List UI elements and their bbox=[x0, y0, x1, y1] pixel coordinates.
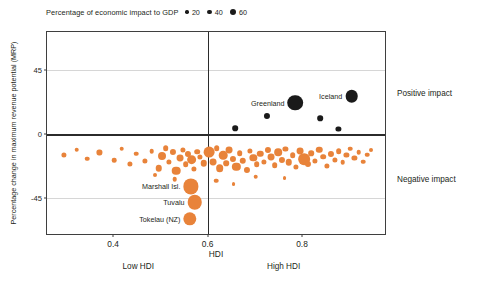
data-point bbox=[267, 154, 274, 161]
data-point bbox=[210, 158, 217, 165]
data-point bbox=[253, 174, 258, 179]
data-point bbox=[320, 154, 326, 160]
point-label-marshall-isl: Marshall Isl. bbox=[142, 182, 183, 191]
data-point bbox=[247, 148, 252, 153]
data-point bbox=[264, 113, 270, 119]
legend-label-60: 60 bbox=[239, 8, 247, 17]
data-point bbox=[233, 126, 239, 132]
data-point bbox=[332, 158, 337, 163]
data-point bbox=[230, 156, 236, 162]
data-point bbox=[240, 158, 247, 165]
legend-bubble-60 bbox=[230, 9, 236, 15]
data-point bbox=[214, 145, 220, 151]
data-point bbox=[361, 159, 366, 164]
data-point bbox=[85, 156, 90, 161]
data-point bbox=[201, 160, 208, 167]
x-tick-label: 0.4 bbox=[107, 234, 119, 249]
data-point bbox=[313, 158, 318, 163]
data-point bbox=[214, 178, 219, 183]
data-point bbox=[340, 160, 345, 165]
data-point bbox=[153, 173, 157, 177]
data-point bbox=[261, 159, 266, 164]
positive-impact-label: Positive impact bbox=[397, 88, 452, 97]
data-point bbox=[324, 163, 329, 168]
point-label-iceland: Iceland bbox=[319, 92, 345, 101]
data-point bbox=[232, 182, 236, 186]
y-tick-label: 45 bbox=[34, 66, 47, 75]
data-point bbox=[279, 156, 285, 162]
data-point bbox=[97, 150, 102, 155]
data-point bbox=[283, 176, 287, 180]
data-point bbox=[197, 154, 202, 159]
zero-reference-line bbox=[47, 134, 385, 136]
y-axis-label: Percentage change in maximum revenue pot… bbox=[9, 31, 18, 235]
gridline bbox=[47, 198, 385, 199]
legend-key-40: 40 bbox=[207, 8, 223, 17]
point-label-greenland: Greenland bbox=[251, 98, 288, 107]
gridline bbox=[47, 70, 385, 71]
chart-legend: Percentage of economic impact to GDP 20 … bbox=[46, 4, 247, 20]
negative-impact-label: Negative impact bbox=[397, 175, 456, 184]
data-point bbox=[244, 167, 250, 173]
data-point bbox=[250, 154, 257, 161]
data-point bbox=[232, 162, 240, 170]
data-point bbox=[192, 166, 197, 171]
x-tick-label: 0.8 bbox=[296, 234, 308, 249]
legend-title: Percentage of economic impact to GDP bbox=[46, 8, 178, 17]
y-tick-label: -45 bbox=[31, 193, 47, 202]
data-point bbox=[365, 152, 370, 157]
data-point bbox=[187, 155, 197, 165]
legend-label-20: 20 bbox=[192, 8, 200, 17]
data-point bbox=[356, 150, 361, 155]
data-point bbox=[309, 150, 315, 156]
legend-bubble-40 bbox=[207, 10, 212, 15]
data-point bbox=[172, 167, 181, 176]
legend-bubble-20 bbox=[185, 10, 188, 13]
data-point bbox=[163, 145, 169, 151]
data-point bbox=[305, 161, 311, 167]
data-point bbox=[272, 162, 278, 168]
data-point bbox=[223, 160, 229, 166]
legend-label-40: 40 bbox=[215, 8, 223, 17]
hdi-divider-line bbox=[208, 32, 210, 234]
data-point-marshall-isl bbox=[183, 179, 198, 194]
data-point bbox=[369, 148, 373, 152]
data-point-tuvalu bbox=[188, 195, 203, 210]
data-point bbox=[176, 155, 183, 162]
data-point bbox=[336, 126, 341, 131]
scatter-chart-figure: Percentage of economic impact to GDP 20 … bbox=[0, 0, 479, 303]
data-point bbox=[286, 159, 293, 166]
high-hdi-label: High HDI bbox=[267, 262, 300, 271]
data-point bbox=[328, 151, 334, 157]
data-point-greenland bbox=[288, 95, 304, 111]
data-point bbox=[226, 147, 233, 154]
data-point bbox=[352, 156, 357, 161]
data-point bbox=[143, 158, 148, 163]
data-point bbox=[61, 152, 66, 157]
data-point bbox=[150, 149, 155, 154]
x-axis-label: HDI bbox=[209, 249, 223, 259]
data-point bbox=[119, 147, 124, 152]
data-point bbox=[237, 150, 243, 156]
data-point-tokelau-nz bbox=[183, 212, 196, 225]
point-label-tokelau-nz: Tokelau (NZ) bbox=[139, 215, 183, 224]
data-point bbox=[254, 162, 260, 168]
data-point bbox=[348, 147, 353, 152]
point-label-tuvalu: Tuvalu bbox=[163, 198, 187, 207]
data-point bbox=[264, 147, 270, 153]
data-point bbox=[112, 158, 117, 163]
data-point bbox=[156, 165, 163, 172]
legend-key-20: 20 bbox=[185, 8, 199, 17]
legend-key-60: 60 bbox=[230, 8, 247, 17]
y-tick-label: 0 bbox=[38, 130, 47, 139]
data-point bbox=[290, 152, 296, 158]
data-point bbox=[294, 164, 299, 169]
data-point-iceland bbox=[345, 90, 358, 103]
data-point bbox=[128, 161, 133, 166]
data-point bbox=[336, 148, 342, 154]
data-point bbox=[316, 146, 323, 153]
data-point bbox=[134, 152, 139, 157]
data-point bbox=[344, 153, 349, 158]
data-point bbox=[216, 164, 224, 172]
data-point bbox=[167, 160, 172, 165]
